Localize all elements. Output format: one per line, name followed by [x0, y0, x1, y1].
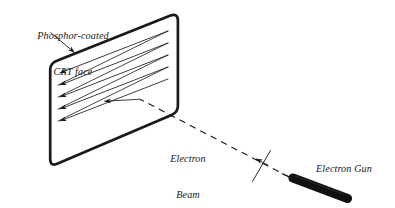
label-electron-gun: Electron Gun [316, 163, 372, 175]
beam-direction-arrow [256, 159, 268, 165]
crt-diagram-figure: Phosphor-coated CRT face Electron Beam E… [0, 0, 395, 208]
electron-gun-shape [282, 174, 347, 199]
label-phosphor-coated-crt-face: Phosphor-coated CRT face [18, 6, 128, 102]
label-electron-beam: Electron Beam [158, 129, 218, 208]
label-crt-line2: CRT face [18, 66, 128, 78]
label-beam-line2: Beam [158, 189, 218, 201]
label-crt-line1: Phosphor-coated [18, 30, 128, 42]
label-beam-line1: Electron [158, 153, 218, 165]
gun-body [293, 178, 348, 199]
